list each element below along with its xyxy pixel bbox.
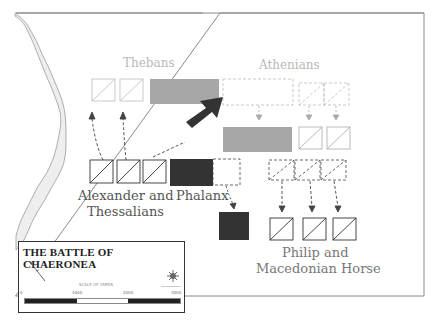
scale-tick-2000: 2000 <box>123 290 133 295</box>
philip-cavalry-3 <box>333 218 356 240</box>
scale-tick-1000: 1000 <box>72 290 82 295</box>
scale-bar-segment-1 <box>25 299 77 303</box>
compass-underline <box>161 286 181 287</box>
phalanx-original-extension <box>213 159 240 185</box>
alexander-attack-path <box>153 142 185 157</box>
alexander-cavalry-2 <box>117 160 140 183</box>
label-alexander-line2: Thessalians <box>87 205 164 218</box>
label-alexander-line1: Alexander and <box>78 189 174 202</box>
label-philip-line2: Macedonian Horse <box>256 262 381 275</box>
philip-withdraw-arrows <box>279 181 341 212</box>
philip-cavalry-1 <box>270 218 293 240</box>
compass-rose-icon <box>165 268 181 284</box>
label-athenians: Athenians <box>259 59 320 71</box>
alexander-cavalry-1 <box>90 160 113 183</box>
scale-tick-3000: 3000 <box>171 290 181 295</box>
athenian-advance-arrows <box>256 106 339 120</box>
north-arrow-icon <box>28 261 48 283</box>
map-legend: THE BATTLE OF CHAERONEA SCALE OF YARDS 0… <box>18 241 185 313</box>
athenians-cavalry-original-2 <box>324 83 349 105</box>
scale-tick-0: 0 <box>20 290 23 295</box>
label-thebans: Thebans <box>123 57 175 69</box>
river <box>15 14 66 250</box>
philip-cavalry-2 <box>303 218 326 240</box>
scale-caption: SCALE OF YARDS <box>79 282 113 287</box>
athenians-original-position <box>223 79 293 105</box>
thebans-cavalry-left <box>92 79 115 101</box>
alexander-advance-arrows <box>89 112 126 160</box>
athenians-infantry-block <box>223 127 292 152</box>
athenians-cavalry-1 <box>299 127 322 149</box>
athenians-cavalry-2 <box>327 127 350 149</box>
label-philip-line1: Philip and <box>282 246 349 259</box>
scale-bar <box>24 298 181 304</box>
philip-cavalry-original <box>269 160 346 180</box>
phalanx-rear-block <box>219 212 249 240</box>
label-phalanx: Phalanx <box>176 189 228 202</box>
alexander-cavalry-3 <box>143 160 166 183</box>
scale-bar-segment-3 <box>128 299 180 303</box>
thebans-cavalry-right <box>120 79 143 101</box>
athenians-cavalry-original-1 <box>299 83 324 105</box>
phalanx-block <box>170 159 213 186</box>
